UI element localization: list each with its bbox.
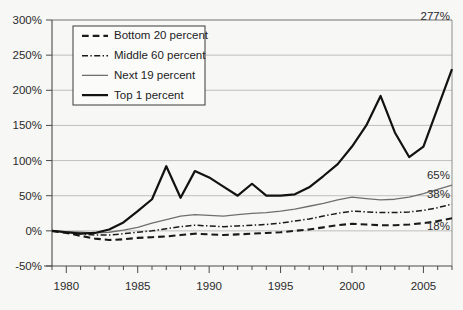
x-tick-label: 1990 bbox=[196, 280, 222, 292]
y-tick-label: 150% bbox=[13, 119, 42, 131]
x-axis-labels: 198019851990199520002005 bbox=[53, 280, 436, 292]
y-tick-label: 0% bbox=[25, 225, 42, 237]
y-tick-label: 200% bbox=[13, 84, 42, 96]
legend-label: Next 19 percent bbox=[114, 69, 196, 81]
y-tick-label: 300% bbox=[13, 14, 42, 26]
x-tick-label: 2000 bbox=[339, 280, 365, 292]
legend-label: Top 1 percent bbox=[114, 89, 184, 101]
x-tick-label: 1995 bbox=[268, 280, 294, 292]
x-tick-label: 2005 bbox=[411, 280, 437, 292]
y-tick-label: 100% bbox=[13, 155, 42, 167]
endpoint-label-next-19-percent: 65% bbox=[427, 169, 450, 181]
x-tick-label: 1980 bbox=[53, 280, 79, 292]
legend-label: Bottom 20 percent bbox=[114, 29, 209, 41]
y-axis-ticks: 300%250%200%150%100%50%0%-50% bbox=[13, 14, 52, 272]
legend: Bottom 20 percentMiddle 60 percentNext 1… bbox=[73, 26, 209, 105]
line-chart: 300%250%200%150%100%50%0%-50%19801985199… bbox=[0, 0, 463, 310]
y-tick-label: -50% bbox=[15, 260, 42, 272]
y-tick-label: 50% bbox=[19, 190, 42, 202]
y-tick-label: 250% bbox=[13, 49, 42, 61]
endpoint-labels: 18%38%65%277% bbox=[421, 10, 450, 232]
chart-container: 300%250%200%150%100%50%0%-50%19801985199… bbox=[0, 0, 463, 310]
endpoint-label-top-1-percent: 277% bbox=[421, 10, 450, 22]
x-tick-label: 1985 bbox=[125, 280, 151, 292]
x-axis-minor-ticks bbox=[52, 266, 452, 273]
legend-label: Middle 60 percent bbox=[114, 49, 206, 61]
endpoint-label-bottom-20-percent: 18% bbox=[427, 220, 450, 232]
endpoint-label-middle-60-percent: 38% bbox=[427, 188, 450, 200]
